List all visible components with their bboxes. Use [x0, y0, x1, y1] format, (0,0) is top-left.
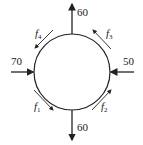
right-flow-label: 50: [123, 55, 135, 67]
f4-label: f4: [35, 27, 42, 41]
circle-road: [34, 34, 110, 110]
top-flow-label: 60: [77, 6, 89, 18]
f2-label: f2: [101, 100, 108, 114]
bottom-flow-label: 60: [77, 121, 89, 133]
traffic-circle-diagram: 60 50 60 70 f1 f2 f3 f4: [0, 0, 143, 145]
left-flow-label: 70: [11, 55, 23, 67]
f1-label: f1: [34, 100, 41, 114]
f3-label: f3: [106, 27, 113, 41]
